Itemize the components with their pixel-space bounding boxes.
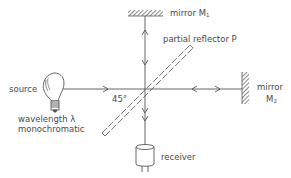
wavelength-label: wavelength λ: [18, 115, 75, 124]
partial-reflector-label: partial reflector P: [163, 35, 237, 44]
receiver-icon: [136, 145, 154, 173]
mirror-m2-label: mirror M2: [257, 83, 283, 104]
interferometer-diagram: [0, 0, 291, 178]
source-label: source: [9, 85, 37, 94]
partial-reflector: [102, 45, 193, 136]
receiver-label: receiver: [161, 153, 196, 162]
mirror-m2: [242, 72, 249, 104]
mirror-m1-label: mirror M1: [170, 9, 210, 19]
angle-label: 45°: [112, 95, 127, 104]
monochromatic-label: monochromatic: [18, 125, 85, 134]
mirror-m1: [128, 10, 163, 16]
light-bulb-icon: [43, 73, 64, 112]
